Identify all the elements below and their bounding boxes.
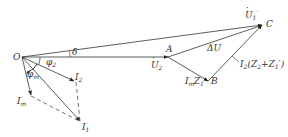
point-b-label: B <box>210 76 218 86</box>
point-o-label: O <box>13 52 21 62</box>
i2-z-leader <box>232 56 239 62</box>
phi2-angle-arc <box>39 57 41 65</box>
i2-label: I2 <box>74 72 83 83</box>
point-c-label: C <box>266 19 273 29</box>
delta-label: δ <box>72 47 77 57</box>
im-prime-label: Im′ <box>16 95 27 107</box>
u2-dot: · <box>152 53 155 63</box>
point-a-label: A <box>165 44 173 54</box>
phasor-diagram: O A B C δ φ2 φm U1′ · U2 · ΔU Im′Z1′ I2(… <box>0 0 288 137</box>
delta-angle-arc <box>70 51 71 57</box>
i2-z-phasor <box>208 25 262 81</box>
phim-label: φm <box>27 69 39 80</box>
i1-prime-label: I1′ <box>81 121 89 133</box>
u1-prime-phasor <box>22 25 262 57</box>
u1-dot: · <box>246 3 249 13</box>
phi2-label: φ2 <box>46 57 56 68</box>
i2-z-label: I2(Z2+Z1′) <box>239 59 285 70</box>
delta-u-label: ΔU <box>206 43 221 53</box>
dashed-i2-to-i1 <box>76 82 80 121</box>
im-z1-label: Im′Z1′ <box>184 75 204 87</box>
dashed-im-to-i1 <box>31 96 79 121</box>
